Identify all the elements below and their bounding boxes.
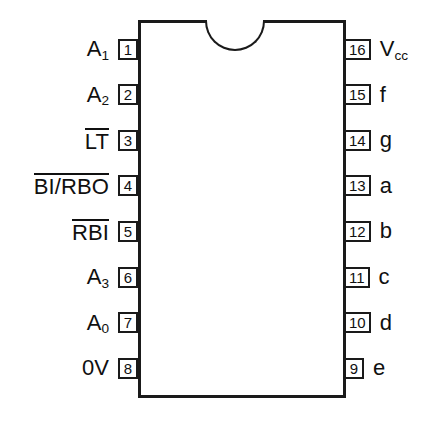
pin-signal-label: RBI [72, 219, 109, 244]
pin-signal-label: LT [85, 128, 109, 153]
pin-signal-label: A1 [87, 38, 109, 60]
ic-body-outline [138, 20, 346, 398]
pin-row[interactable]: A36 [87, 265, 138, 289]
pin-number-box[interactable]: 8 [118, 358, 138, 379]
active-low-overline: BI/RBO [34, 173, 109, 198]
pin-signal-label: b [380, 220, 392, 242]
pin-number-box[interactable]: 15 [344, 84, 371, 105]
pin-number-box[interactable]: 3 [118, 130, 138, 151]
pin-number-box[interactable]: 4 [118, 175, 138, 196]
pin-signal-label: f [380, 84, 386, 106]
pin-signal-subscript: 2 [101, 93, 109, 108]
pin-row[interactable]: 12b [344, 219, 392, 243]
pin-row[interactable]: A07 [87, 311, 138, 335]
pin-number-box[interactable]: 7 [118, 312, 138, 333]
pin-row[interactable]: 16Vcc [344, 37, 408, 61]
pin-row[interactable]: BI/RBO4 [34, 174, 138, 198]
pin-signal-subscript: cc [394, 48, 408, 63]
pin-signal-subscript: 0 [101, 321, 109, 336]
pin-signal-label: A2 [87, 84, 109, 106]
pin-number-box[interactable]: 6 [118, 267, 138, 288]
pin-signal-label: BI/RBO [34, 173, 109, 198]
pin-row[interactable]: 0V8 [82, 356, 138, 380]
pin-signal-label: A3 [87, 266, 109, 288]
pin-number-box[interactable]: 5 [118, 221, 138, 242]
pin-signal-subscript: 1 [101, 48, 109, 63]
pin-signal-label: d [380, 312, 392, 334]
pin-signal-label: a [380, 175, 392, 197]
active-low-overline: LT [85, 128, 109, 153]
pin-row[interactable]: 10d [344, 311, 392, 335]
pin-row[interactable]: 9e [344, 356, 385, 380]
pin-number-box[interactable]: 10 [344, 312, 371, 333]
pin-signal-label: 0V [82, 357, 109, 379]
pin-row[interactable]: A11 [87, 37, 138, 61]
active-low-overline: RBI [72, 219, 109, 244]
pin-number-box[interactable]: 2 [118, 84, 138, 105]
pin-number-box[interactable]: 9 [344, 358, 364, 379]
pin-number-box[interactable]: 13 [344, 175, 371, 196]
pin-number-box[interactable]: 14 [344, 130, 371, 151]
ic-pinout-diagram: A11A22LT3BI/RBO4RBI5A36A070V8 16Vcc15f14… [0, 0, 425, 422]
pin-number-box[interactable]: 11 [344, 267, 370, 288]
pin-signal-label: Vcc [380, 38, 408, 60]
pin-row[interactable]: RBI5 [72, 219, 138, 243]
pin-number-box[interactable]: 16 [344, 39, 371, 60]
pin-row[interactable]: A22 [87, 83, 138, 107]
pin-signal-subscript: 3 [101, 276, 109, 291]
pin-row[interactable]: 11c [344, 265, 390, 289]
pin-signal-label: c [379, 266, 390, 288]
pin-row[interactable]: 13a [344, 174, 392, 198]
pin-row[interactable]: LT3 [85, 128, 138, 152]
pin-row[interactable]: 15f [344, 83, 386, 107]
pin-signal-label: g [380, 129, 392, 151]
pin-signal-label: e [373, 357, 385, 379]
pin-row[interactable]: 14g [344, 128, 392, 152]
pin-signal-label: A0 [87, 312, 109, 334]
pin-number-box[interactable]: 1 [118, 39, 138, 60]
pin-number-box[interactable]: 12 [344, 221, 371, 242]
